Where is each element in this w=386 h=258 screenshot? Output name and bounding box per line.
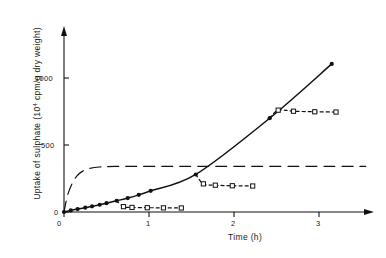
series-line-continuous-uptake [64, 64, 332, 212]
data-series-layer [62, 62, 366, 214]
y-axis-arrowhead [61, 26, 67, 36]
y-tick-label-0: 0 [54, 208, 58, 217]
x-axis-arrowhead [364, 209, 374, 215]
data-point [291, 109, 295, 113]
data-point [121, 205, 125, 209]
data-point [179, 206, 183, 210]
data-point [130, 205, 134, 209]
data-point [213, 183, 217, 187]
x-tick-label-0: 0 [57, 219, 61, 228]
series-saturating-control [64, 166, 366, 212]
y-tick-label-500: 500 [41, 141, 54, 150]
data-point [76, 207, 80, 211]
series-continuous-uptake [62, 62, 334, 214]
y-axis-title-prefix: Uptake of sulphate (10 [32, 107, 42, 200]
data-point [145, 206, 149, 210]
series-line-saturating-control [64, 166, 366, 212]
series-chase-branch-mid [196, 174, 255, 188]
axes-group [61, 26, 374, 217]
data-point [251, 184, 255, 188]
data-point [230, 184, 234, 188]
figure-uptake-of-sulphate-vs-time: Uptake of sulphate (104 cpm/g dry weight… [0, 0, 386, 258]
data-point [334, 110, 338, 114]
x-tick-label-1: 1 [146, 219, 150, 228]
y-tick-label-1000: 1000 [35, 74, 53, 83]
data-point [276, 108, 280, 112]
data-point [201, 182, 205, 186]
data-point [137, 193, 141, 197]
x-axis-title: Time (h) [228, 232, 262, 242]
series-chase-branch-early [117, 201, 184, 210]
data-point [330, 62, 334, 66]
data-point [83, 206, 87, 210]
x-tick-label-2: 2 [231, 219, 235, 228]
data-point [313, 110, 317, 114]
data-point [149, 189, 153, 193]
x-tick-label-3: 3 [316, 219, 320, 228]
y-axis-title: Uptake of sulphate (104 cpm/g dry weight… [32, 18, 43, 208]
data-point [90, 204, 94, 208]
data-point [98, 203, 102, 207]
y-axis-title-exponent: 4 [32, 103, 38, 107]
data-point [126, 196, 130, 200]
data-point [161, 206, 165, 210]
series-chase-branch-late [270, 108, 338, 118]
data-point [104, 201, 108, 205]
y-axis-title-suffix: cpm/g dry weight) [32, 27, 42, 103]
data-point [69, 208, 73, 212]
x-axis-ticks [64, 212, 319, 217]
